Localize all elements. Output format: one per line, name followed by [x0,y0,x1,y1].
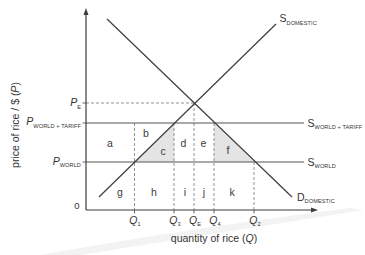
tariff-diagram: 0 PE PWORLD + TARIFF PWORLD Q1 Q3 QE Q4 … [0,0,365,255]
area-label-f: f [227,144,230,156]
area-label-g: g [117,186,123,198]
label-supply-world-tariff: SWORLD + TARIFF [308,117,363,131]
quantity-symbol: Q [209,214,217,226]
area-label-e: e [201,137,207,149]
price-label-equilibrium: PE [70,96,81,110]
y-axis-title: price of rice / $ (P) [9,82,21,168]
quantity-label-q3: Q3 [169,214,180,227]
quantity-subscript: 1 [137,221,140,227]
shaded-area-f [214,123,254,162]
y-axis-arrow-icon [84,8,89,15]
y-axis-title-suffix: ) [9,82,21,86]
curve-subscript: WORLD [315,163,336,169]
area-label-i: i [184,186,186,198]
price-subscript: WORLD + TARIFF [33,123,81,129]
price-label-world: PWORLD [53,155,81,169]
label-supply-world: SWORLD [308,156,336,170]
quantity-subscript: E [197,221,201,227]
y-axis-title-variable: P [9,86,21,93]
supply-domestic-curve [99,24,276,197]
quantity-symbol: Q [129,214,137,226]
quantity-label-qe: QE [189,214,201,227]
x-axis-title-suffix: ) [254,232,258,244]
curve-symbol: S [280,12,287,24]
x-axis-title-variable: Q [246,232,254,244]
price-subscript: WORLD [60,162,81,168]
price-label-world-tariff: PWORLD + TARIFF [26,115,81,129]
quantity-subscript: 4 [217,221,220,227]
price-symbol: P [26,115,33,127]
curve-subscript: WORLD + TARIFF [315,124,363,130]
x-axis-title-prefix: quantity of rice ( [171,232,246,244]
quantity-symbol: Q [249,214,257,226]
quantity-subscript: 3 [177,221,180,227]
quantity-symbol: Q [189,214,197,226]
label-supply-domestic: SDOMESTIC [280,12,317,26]
area-label-j: j [202,186,205,198]
area-label-c: c [160,145,165,157]
x-axis-arrow-icon [311,208,318,213]
quantity-label-q4: Q4 [209,214,220,227]
price-symbol: P [70,96,77,108]
area-label-h: h [151,186,157,198]
price-symbol: P [53,155,60,167]
curve-subscript: DOMESTIC [305,198,335,204]
label-demand-domestic: DDOMESTIC [297,191,335,205]
area-label-a: a [107,137,113,149]
price-subscript: E [77,104,81,110]
area-label-d: d [181,137,187,149]
y-axis-title-prefix: price of rice / $ ( [9,92,21,168]
origin-label: 0 [74,200,79,211]
curve-symbol: S [308,117,315,129]
area-label-b: b [143,127,149,139]
x-axis-title: quantity of rice (Q) [171,232,257,244]
area-label-k: k [229,186,235,198]
quantity-symbol: Q [169,214,177,226]
quantity-subscript: 2 [257,221,260,227]
quantity-label-q1: Q1 [129,214,140,227]
curve-symbol: S [308,156,315,168]
quantity-label-q2: Q2 [249,214,260,227]
curve-subscript: DOMESTIC [287,20,317,26]
